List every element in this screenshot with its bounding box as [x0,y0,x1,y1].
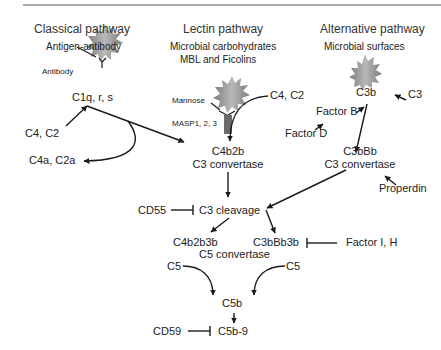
lectin-pathway-title: Lectin pathway [183,23,263,35]
factor-b: Factor B [316,106,358,117]
mannose-label: Mannose [172,97,205,105]
pathway-connectors [0,0,441,350]
mac-c5b-9: C5b-9 [218,326,248,337]
alternative-c3-convertase-label: C3 convertase [315,159,405,170]
classical-trigger: Antigen-antibody [46,42,121,52]
spiky-microbe-icon [213,76,250,113]
properdin: Properdin [379,183,427,194]
c4b2b3b: C4b2b3b [173,237,218,248]
factor-i-h: Factor I, H [346,237,397,248]
alternative-pathway-title: Alternative pathway [320,23,425,35]
y-shaped-antibody-icon [99,58,106,68]
c3: C3 [408,89,422,100]
c5-convertase-label: C5 convertase [199,249,270,260]
classical-substrates: C4, C2 [25,128,59,139]
cd59: CD59 [153,326,181,337]
classical-pathway-title: Classical pathway [34,23,130,35]
factor-d: Factor D [285,128,327,139]
c5-right: C5 [286,261,300,272]
classical-byproducts: C4a, C2a [29,155,75,166]
c4b2b: C4b2b [188,146,268,157]
lectin-substrates: C4, C2 [270,90,304,101]
c5-left: C5 [167,261,181,272]
inhibition-lines [171,205,337,336]
c3-cleavage: C3 cleavage [199,205,260,216]
masp-label: MASP1, 2, 3 [172,120,217,128]
alternative-trigger: Microbial surfaces [324,42,405,52]
c3bbb: C3bBb [320,146,400,157]
cd55: CD55 [138,205,166,216]
c3bbb3b: C3bBb3b [253,237,299,248]
c1qrs-complex: C1q, r, s [72,92,113,103]
c3b: C3b [356,87,376,98]
lectin-trigger-line2: MBL and Ficolins [180,55,256,65]
lectin-trigger-line1: Microbial carbohydrates [170,42,276,52]
antibody-label: Antibody [42,68,73,76]
lectin-c3-convertase-label: C3 convertase [183,159,273,170]
c5b: C5b [222,298,242,309]
